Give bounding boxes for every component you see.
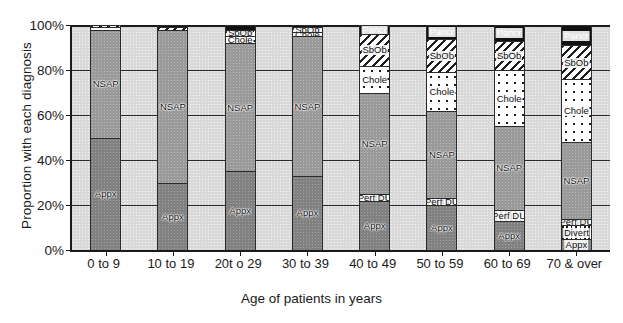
segment-label: NSAP [227,103,253,113]
y-axis-tick-mark [66,115,72,116]
plot-top-rule [72,25,610,27]
x-axis-tick-label: 30 to 39 [282,256,329,271]
segment-nsap[interactable]: NSAP [495,126,524,209]
segment-nsap[interactable]: NSAP [158,30,187,183]
bar-50-to-59[interactable]: AppxPerf DUNSAPCholeSbObPancr [426,25,457,250]
segment-sbob[interactable] [158,27,187,29]
segment-chole[interactable]: Chole [495,70,524,126]
bar-10-to-19[interactable]: AppxNSAP [157,25,188,250]
segment-sbob[interactable]: SbOb [360,34,389,66]
bar-20t-o-29[interactable]: AppxNSAPCholeSbOb [225,25,256,250]
x-axis-tick-label: 10 to 19 [147,256,194,271]
segment-chole[interactable]: Chole [360,66,389,93]
segment-pancr[interactable]: Pancr [427,25,456,39]
segment-appx[interactable]: Appx [495,221,524,250]
segment-appx[interactable]: Appx [562,239,591,250]
segment-nsap[interactable]: NSAP [91,30,120,138]
segment-label: NSAP [429,150,455,160]
segment-sbob[interactable]: SbOb [293,27,322,32]
segment-nsap[interactable]: NSAP [562,142,591,219]
segment-label: Perf DU [427,198,456,205]
y-axis-tick-labels: 100%80%60%40%20%0% [18,0,64,323]
segment-sbob[interactable]: SbOb [495,41,524,70]
segment-label: SbOb [294,27,320,32]
segment-pancr[interactable]: Pancr [495,25,524,41]
segment-label: SbOb [227,30,253,37]
gridline [72,70,610,71]
y-axis-tick-label: 60% [18,108,64,123]
segment-perf-du[interactable]: Perf DU [495,210,524,221]
bar-60-to-69[interactable]: AppxPerf DUNSAPCholeSbObPancr [494,25,525,250]
segment-perf-du[interactable]: Perf DU [427,198,456,205]
segment-label: NSAP [93,79,119,89]
segment-label: Chole [428,87,455,97]
segment-label: NSAP [496,163,522,173]
bar-40-to-49[interactable]: AppxPerf DUNSAPCholeSbObPancr [359,25,390,250]
segment-appx[interactable]: Appx [360,201,389,251]
segment-sbob[interactable]: SbOb [562,45,591,79]
segment-sbob[interactable] [91,25,120,27]
segment-label: Chole [294,32,321,37]
segment-sbob[interactable]: SbOb [226,30,255,37]
y-axis-tick-label: 100% [18,18,64,33]
segment-pancr[interactable] [226,25,255,30]
segment-appx[interactable]: Appx [427,205,456,250]
segment-label: Appx [565,240,589,250]
segment-label: Chole [361,75,388,85]
segment-label: Appx [364,221,386,231]
segment-label: Divert [563,228,590,238]
segment-label: Perf DU [495,211,524,221]
stacked-bar-chart: Proportion with each diagnosis 100%80%60… [0,0,623,323]
segment-label: Appx [229,206,251,216]
segment-label: Pancr [428,27,455,37]
gridline [72,205,610,206]
segment-nsap[interactable]: NSAP [293,36,322,176]
x-axis-tick-label: 50 to 59 [416,256,463,271]
y-axis-tick-label: 40% [18,153,64,168]
gridline [72,115,610,116]
segment-nsap[interactable]: NSAP [226,43,255,171]
segment-label: Perf DU [562,219,591,226]
segment-appx[interactable]: Appx [226,171,255,250]
x-axis-tick-label: 70 & over [547,256,603,271]
bar-0-to-9[interactable]: AppxNSAP [90,25,121,250]
x-axis-title: Age of patients in years [0,291,623,306]
segment-pancr[interactable]: Pancr [562,25,591,45]
x-axis-tick-labels: 0 to 910 to 1920t o 2930 to 3940 to 4950… [70,256,608,278]
bar-70-over[interactable]: AppxDivertPerf DUNSAPCholeSbObPancr [561,25,592,250]
segment-appx[interactable]: Appx [293,176,322,250]
segment-nsap[interactable]: NSAP [360,93,389,194]
segment-chole[interactable]: Chole [562,79,591,142]
gridline [72,160,610,161]
segment-divert[interactable]: Divert [562,225,591,239]
segment-pancr[interactable] [293,25,322,27]
y-axis-tick-mark [66,205,72,206]
segment-label: Pancr [496,28,523,38]
segment-chole[interactable]: Chole [226,36,255,43]
segment-sbob[interactable]: SbOb [427,39,456,73]
segment-pancr[interactable]: Pancr [360,25,389,34]
segment-label: SbOb [429,51,455,61]
segment-label: Appx [162,212,184,222]
segment-label: SbOb [496,51,522,61]
segment-appx[interactable]: Appx [91,138,120,251]
segment-chole[interactable]: Chole [427,72,456,110]
segment-nsap[interactable]: NSAP [427,111,456,199]
segment-perf-du[interactable]: Perf DU [562,219,591,226]
x-axis-tick-label: 20t o 29 [215,256,262,271]
segment-appx[interactable]: Appx [158,183,187,251]
segment-pancr[interactable] [158,25,187,27]
segment-chole[interactable] [91,27,120,29]
segment-label: SbOb [563,58,589,68]
bar-30-to-39[interactable]: AppxNSAPCholeSbOb [292,25,323,250]
y-axis-tick-mark [66,70,72,71]
segment-chole[interactable]: Chole [293,32,322,37]
segment-perf-du[interactable]: Perf DU [360,194,389,201]
segment-label: NSAP [160,102,186,112]
segment-label: Chole [496,94,523,104]
segment-label: NSAP [294,102,320,112]
segment-label: SbOb [361,45,387,55]
x-axis-tick-label: 40 to 49 [349,256,396,271]
x-axis-tick-label: 0 to 9 [87,256,120,271]
y-axis-tick-label: 0% [18,243,64,258]
